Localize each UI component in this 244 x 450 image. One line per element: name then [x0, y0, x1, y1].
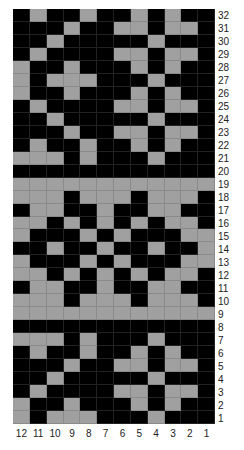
stitch-cell-main [13, 22, 30, 35]
stitch-cell-main [114, 398, 131, 411]
stitch-cell-main [64, 9, 81, 22]
stitch-cell-contrast [148, 152, 165, 165]
stitch-cell-main [80, 204, 97, 217]
stitch-cell-contrast [131, 48, 148, 61]
row-label: 24 [217, 113, 244, 126]
row-label: 31 [217, 22, 244, 35]
stitch-cell-main [97, 372, 114, 385]
stitch-cell-contrast [47, 178, 64, 191]
row-label: 20 [217, 165, 244, 178]
stitch-cell-main [181, 35, 198, 48]
column-label: 9 [64, 427, 81, 441]
stitch-cell-main [13, 204, 30, 217]
stitch-cell-contrast [47, 113, 64, 126]
stitch-cell-main [148, 320, 165, 333]
stitch-cell-main [131, 35, 148, 48]
stitch-cell-main [198, 281, 215, 294]
stitch-cell-contrast [148, 191, 165, 204]
row-label: 19 [217, 178, 244, 191]
stitch-cell-main [47, 229, 64, 242]
stitch-cell-main [80, 113, 97, 126]
stitch-cell-contrast [181, 191, 198, 204]
stitch-cell-main [165, 165, 182, 178]
stitch-cell-main [114, 113, 131, 126]
stitch-cell-contrast [80, 152, 97, 165]
stitch-cell-contrast [148, 372, 165, 385]
stitch-cell-main [80, 35, 97, 48]
stitch-cell-main [30, 113, 47, 126]
stitch-cell-main [148, 255, 165, 268]
stitch-cell-contrast [165, 346, 182, 359]
row-label: 23 [217, 126, 244, 139]
stitch-cell-contrast [30, 9, 47, 22]
stitch-cell-contrast [165, 87, 182, 100]
stitch-cell-main [30, 320, 47, 333]
stitch-cell-contrast [97, 217, 114, 230]
stitch-cell-main [97, 385, 114, 398]
stitch-cell-contrast [97, 294, 114, 307]
stitch-cell-contrast [97, 281, 114, 294]
stitch-cell-contrast [64, 87, 81, 100]
stitch-cell-contrast [114, 359, 131, 372]
stitch-cell-contrast [165, 48, 182, 61]
stitch-cell-contrast [131, 359, 148, 372]
stitch-cell-main [13, 281, 30, 294]
stitch-cell-main [80, 268, 97, 281]
stitch-cell-main [47, 126, 64, 139]
row-label: 26 [217, 87, 244, 100]
stitch-cell-main [64, 242, 81, 255]
stitch-cell-main [181, 242, 198, 255]
stitch-cell-main [97, 126, 114, 139]
stitch-cell-main [47, 359, 64, 372]
stitch-cell-contrast [165, 178, 182, 191]
stitch-cell-main [181, 204, 198, 217]
stitch-cell-contrast [47, 204, 64, 217]
stitch-cell-main [64, 320, 81, 333]
stitch-cell-main [47, 385, 64, 398]
row-label: 4 [217, 373, 244, 386]
stitch-cell-contrast [47, 191, 64, 204]
stitch-cell-main [198, 204, 215, 217]
stitch-cell-contrast [148, 178, 165, 191]
stitch-cell-main [30, 242, 47, 255]
stitch-cell-main [64, 165, 81, 178]
stitch-cell-main [114, 242, 131, 255]
stitch-cell-main [181, 139, 198, 152]
row-label: 3 [217, 386, 244, 399]
stitch-cell-contrast [64, 22, 81, 35]
stitch-cell-main [148, 126, 165, 139]
stitch-cell-main [97, 87, 114, 100]
stitch-cell-contrast [64, 61, 81, 74]
stitch-cell-main [165, 35, 182, 48]
stitch-cell-main [165, 242, 182, 255]
stitch-cell-contrast [165, 9, 182, 22]
stitch-cell-contrast [13, 229, 30, 242]
stitch-cell-contrast [131, 126, 148, 139]
stitch-cell-main [80, 372, 97, 385]
stitch-cell-main [131, 242, 148, 255]
column-label: 1 [198, 427, 215, 441]
column-label: 6 [114, 427, 131, 441]
stitch-cell-main [97, 398, 114, 411]
row-label: 22 [217, 139, 244, 152]
stitch-cell-main [114, 165, 131, 178]
stitch-cell-main [131, 204, 148, 217]
stitch-cell-contrast [30, 191, 47, 204]
stitch-cell-main [80, 398, 97, 411]
stitch-cell-main [13, 48, 30, 61]
stitch-cell-main [165, 152, 182, 165]
stitch-cell-contrast [13, 178, 30, 191]
stitch-cell-main [198, 61, 215, 74]
stitch-cell-main [198, 359, 215, 372]
stitch-cell-main [181, 9, 198, 22]
column-label: 10 [47, 427, 64, 441]
stitch-cell-main [148, 9, 165, 22]
stitch-cell-main [198, 411, 215, 424]
stitch-cell-main [13, 100, 30, 113]
stitch-cell-main [30, 359, 47, 372]
stitch-cell-contrast [114, 307, 131, 320]
stitch-cell-main [165, 74, 182, 87]
stitch-cell-main [165, 113, 182, 126]
stitch-cell-contrast [13, 294, 30, 307]
stitch-cell-contrast [181, 178, 198, 191]
